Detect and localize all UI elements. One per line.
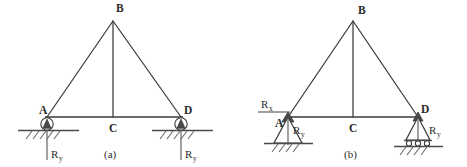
member-b-ab [288, 21, 353, 117]
caption-a: (a) [104, 148, 117, 161]
ground-hatch-b-right [400, 147, 427, 155]
node-label-a-b: B [116, 2, 124, 14]
reaction-label-b-left-sub: y [301, 130, 305, 139]
roller-wheel-icon [424, 141, 429, 146]
truss-diagram-svg: A B C D R y R y (a) [0, 0, 467, 167]
ground-hatch-a-left [26, 131, 60, 139]
reaction-label-a-right-sub: y [193, 154, 197, 163]
caption-b: (b) [344, 148, 357, 161]
node-label-a-a: A [39, 104, 48, 116]
reaction-label-b-rx-sub: x [269, 104, 273, 113]
reaction-label-b-right-r: R [429, 124, 437, 136]
reaction-label-a-right: R y [185, 148, 197, 163]
reaction-label-b-rx-r: R [261, 98, 269, 110]
reaction-label-a-right-r: R [185, 148, 193, 160]
reaction-label-a-left-r: R [51, 148, 59, 160]
ground-hatch-b-left [272, 144, 299, 152]
roller-wheel-icon [406, 141, 411, 146]
support-a-left-roller [18, 118, 79, 139]
panel-a: A B C D R y R y (a) [18, 2, 213, 163]
node-label-b-d: D [421, 103, 429, 115]
node-label-b-a: A [275, 117, 284, 129]
reaction-label-a-left-sub: y [59, 154, 63, 163]
reaction-label-b-left-r: R [293, 124, 301, 136]
member-a-ab [47, 21, 113, 117]
reaction-label-a-left: R y [51, 148, 63, 163]
node-label-a-d: D [184, 104, 192, 116]
node-label-b-b: B [358, 4, 366, 16]
figure-root: A B C D R y R y (a) [0, 0, 467, 167]
member-b-bd [353, 21, 418, 117]
reaction-label-b-right-ry: R y [429, 124, 441, 139]
ground-hatch-a-right [160, 131, 194, 139]
member-a-bd [113, 21, 181, 117]
panel-b-truss-members [286, 21, 420, 117]
reaction-label-b-rx: R x [261, 98, 273, 113]
node-label-b-c: C [349, 122, 357, 134]
reaction-label-b-right-sub: y [437, 130, 441, 139]
panel-a-truss-members [45, 21, 183, 117]
node-label-a-c: C [109, 122, 117, 134]
panel-b: A B C D R x R y R y (b) [258, 4, 443, 161]
support-a-right-roller [152, 118, 213, 139]
